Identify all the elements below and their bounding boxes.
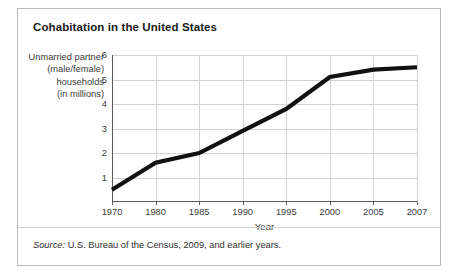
y-tick-label: 4 — [102, 99, 107, 109]
y-axis-title-line-4: (in millions) — [18, 88, 104, 100]
x-tick-mark — [286, 202, 287, 205]
y-axis-title-line-1: Unmarried partner — [18, 51, 104, 63]
x-tick-mark — [156, 202, 157, 205]
y-tick-label: 1 — [102, 173, 107, 183]
plot-area: 123456 19701980198519901995200020052007 — [112, 55, 417, 202]
x-tick-label: 2007 — [407, 207, 428, 217]
data-series-line — [112, 55, 417, 202]
y-axis-title: Unmarried partner (male/female) househol… — [18, 51, 104, 101]
chart-card: Cohabitation in the United States Unmarr… — [17, 8, 441, 266]
x-tick-label: 1980 — [145, 207, 166, 217]
x-tick-mark — [112, 202, 113, 205]
source-note: Source: U.S. Bureau of the Census, 2009,… — [33, 240, 281, 250]
footer-divider — [18, 227, 442, 228]
x-tick-label: 1990 — [232, 207, 253, 217]
x-tick-mark — [243, 202, 244, 205]
x-tick-label: 2000 — [320, 207, 341, 217]
y-axis-title-line-3: households — [18, 76, 104, 88]
x-tick-label: 1995 — [276, 207, 297, 217]
x-tick-label: 1970 — [102, 207, 123, 217]
y-axis-title-line-2: (male/female) — [18, 63, 104, 75]
page-title: Cohabitation in the United States — [33, 21, 217, 33]
x-tick-mark — [199, 202, 200, 205]
x-tick-mark — [417, 202, 418, 205]
x-tick-mark — [373, 202, 374, 205]
y-tick-label: 2 — [102, 148, 107, 158]
gridline-vertical — [417, 55, 418, 202]
y-tick-label: 3 — [102, 124, 107, 134]
x-tick-label: 1985 — [189, 207, 210, 217]
source-value: U.S. Bureau of the Census, 2009, and ear… — [65, 240, 281, 250]
x-tick-mark — [330, 202, 331, 205]
x-tick-label: 2005 — [363, 207, 384, 217]
source-label: Source: — [33, 240, 65, 250]
chart-figure: Unmarried partner (male/female) househol… — [18, 39, 442, 224]
y-tick-label: 6 — [102, 50, 107, 60]
y-tick-label: 5 — [102, 75, 107, 85]
